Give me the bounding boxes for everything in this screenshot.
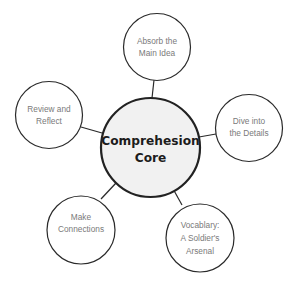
node-details: Dive into the Details <box>216 95 283 162</box>
connector-connections <box>101 183 116 199</box>
node-details-line-2: the Details <box>229 128 268 138</box>
node-review-line-2: Reflect <box>36 116 63 126</box>
node-main-idea: Absorb the Main Idea <box>124 14 191 81</box>
node-vocabulary-line-1: Vocablary: <box>181 220 220 230</box>
center-node: Comprehesion Core <box>101 98 200 197</box>
node-vocabulary-line-3: Arsenal <box>186 246 214 256</box>
node-details-line-1: Dive into <box>233 116 266 126</box>
center-title-line-2: Core <box>135 151 167 165</box>
node-main-idea-line-1: Absorb the <box>137 36 178 46</box>
node-review: Review and Reflect <box>16 82 83 149</box>
node-vocabulary-line-2: A Soldier's <box>181 233 220 243</box>
node-main-idea-line-2: Main Idea <box>139 48 176 58</box>
node-review-line-1: Review and <box>27 104 71 114</box>
node-vocabulary: Vocablary: A Soldier's Arsenal <box>166 204 234 272</box>
node-connections-line-1: Make <box>71 212 92 222</box>
center-title-line-1: Comprehesion <box>101 134 199 148</box>
node-connections-line-2: Connections <box>58 224 104 234</box>
mind-map-diagram: Absorb the Main Idea Dive into the Detai… <box>0 0 299 282</box>
connector-main-idea <box>152 80 154 98</box>
connector-review <box>81 127 102 133</box>
connector-details <box>199 134 216 137</box>
node-connections: Make Connections <box>47 196 115 264</box>
